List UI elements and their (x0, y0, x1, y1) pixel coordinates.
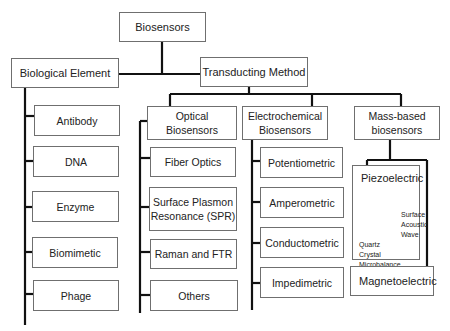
node-biomimetic: Biomimetic (32, 237, 118, 268)
mass-based-label: Mass-based biosensors (368, 109, 425, 137)
root-label: Biosensors (135, 20, 189, 34)
node-mass-based-biosensors: Mass-based biosensors (354, 106, 440, 140)
biosensor-classification-diagram: Biosensors Biological Element Transducti… (0, 0, 450, 331)
node-others: Others (150, 280, 238, 311)
enzyme-label: Enzyme (57, 200, 95, 214)
fiber-optics-label: Fiber Optics (165, 155, 222, 169)
dna-label: DNA (65, 155, 87, 169)
piezoelectric-label: Piezoelectric (361, 172, 423, 184)
conductometric-label: Conductometric (265, 236, 339, 250)
root-node-biosensors: Biosensors (119, 12, 206, 42)
potentiometric-label: Potentiometric (268, 156, 335, 170)
node-biological-element: Biological Element (11, 58, 119, 88)
node-magnetoelectric: Magnetoelectric (350, 266, 434, 296)
node-transducing-method: Transducting Method (200, 57, 308, 87)
node-piezoelectric: Piezoelectric Surface Acoustic Wave Quar… (352, 165, 420, 260)
phage-label: Phage (61, 289, 91, 303)
node-conductometric: Conductometric (260, 227, 344, 258)
antibody-label: Antibody (57, 114, 98, 128)
node-fiber-optics: Fiber Optics (150, 147, 236, 177)
node-raman-ftr: Raman and FTR (150, 239, 237, 269)
biological-element-label: Biological Element (20, 66, 111, 80)
electrochemical-label: Electrochemical Biosensors (248, 109, 322, 137)
node-amperometric: Amperometric (260, 187, 344, 218)
saw-label: Surface Acoustic Wave (401, 210, 427, 240)
magnetoelectric-label: Magnetoelectric (359, 274, 437, 288)
others-label: Others (178, 289, 210, 303)
node-phage: Phage (33, 280, 119, 311)
optical-label: Optical Biosensors (166, 109, 218, 137)
node-impedimetric: Impedimetric (260, 267, 344, 298)
biomimetic-label: Biomimetic (49, 246, 100, 260)
node-enzyme: Enzyme (32, 191, 119, 222)
impedimetric-label: Impedimetric (272, 276, 332, 290)
node-antibody: Antibody (34, 105, 120, 136)
node-dna: DNA (33, 146, 119, 177)
raman-ftr-label: Raman and FTR (155, 247, 233, 261)
node-optical-biosensors: Optical Biosensors (147, 106, 237, 140)
node-electrochemical-biosensors: Electrochemical Biosensors (242, 106, 328, 140)
node-spr: Surface Plasmon Resonance (SPR) (149, 187, 237, 231)
transducing-method-label: Transducting Method (203, 65, 306, 79)
spr-label: Surface Plasmon Resonance (SPR) (151, 195, 236, 223)
amperometric-label: Amperometric (269, 196, 334, 210)
node-potentiometric: Potentiometric (260, 147, 343, 178)
